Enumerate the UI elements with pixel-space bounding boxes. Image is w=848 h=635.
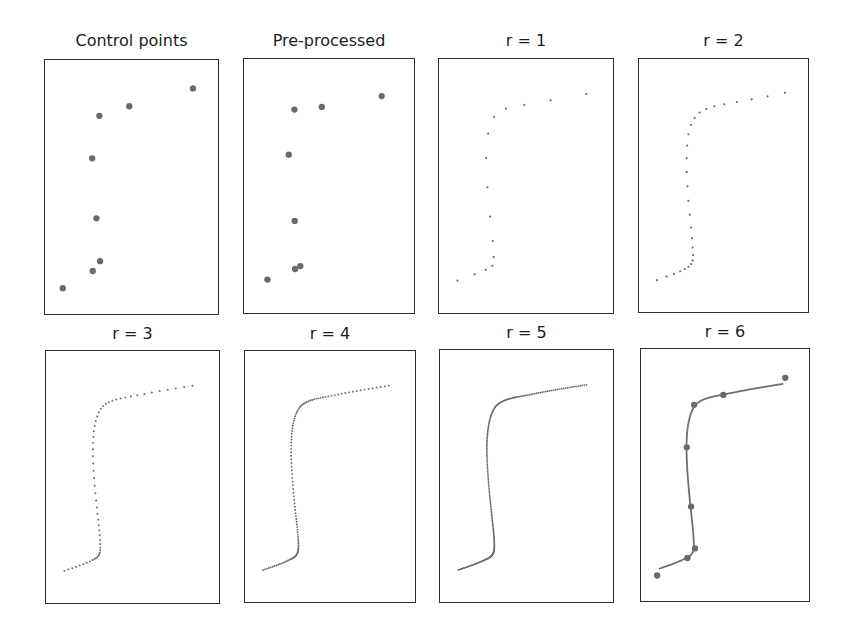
- curve-sample-point: [296, 529, 298, 531]
- curve-sample-point: [490, 502, 492, 504]
- curve-sample-point: [549, 390, 551, 392]
- control-point: [720, 392, 726, 398]
- curve-sample-point: [487, 471, 489, 473]
- curve-sample-point: [344, 392, 346, 394]
- curve-sample-point: [282, 562, 284, 564]
- curve-sample-point: [536, 392, 538, 394]
- curve-sample-point: [290, 448, 292, 450]
- curve-sample-point: [308, 400, 310, 402]
- curve-sample-point: [94, 492, 96, 494]
- curve-sample-point: [291, 477, 293, 479]
- curve-sample-point: [687, 133, 689, 135]
- curve-sample-point: [356, 390, 358, 392]
- curve-sample-point: [96, 415, 98, 417]
- data-point: [89, 155, 95, 161]
- curve-sample-point: [486, 454, 488, 456]
- curve-sample-point: [341, 393, 343, 395]
- curve-sample-point: [523, 104, 525, 106]
- curve-sample-point: [573, 386, 575, 388]
- curve-sample-point: [457, 569, 459, 571]
- curve-sample-point: [486, 451, 488, 453]
- curve-sample-point: [545, 391, 547, 393]
- curve-sample-point: [272, 566, 274, 568]
- curve-sample-point: [97, 519, 99, 521]
- curve-sample-point: [291, 473, 293, 475]
- plot-r3: [46, 351, 219, 603]
- curve-sample-point: [364, 389, 366, 391]
- curve-sample-point: [489, 497, 491, 499]
- curve-sample-point: [98, 411, 100, 413]
- curve-sample-point: [486, 458, 488, 460]
- control-point: [684, 444, 690, 450]
- curve-sample-point: [766, 95, 768, 97]
- curve-sample-point: [489, 499, 491, 501]
- curve-sample-point: [93, 477, 95, 479]
- curve-sample-point: [666, 276, 668, 278]
- curve-sample-point: [293, 499, 295, 501]
- curve-sample-point: [489, 216, 491, 218]
- curve-sample-point: [298, 407, 300, 409]
- curve-sample-point: [67, 569, 69, 571]
- curve-sample-point: [295, 512, 297, 514]
- curve-sample-point: [92, 462, 94, 464]
- curve-sample-point: [360, 389, 362, 391]
- data-point: [319, 104, 325, 110]
- curve-sample-point: [490, 510, 492, 512]
- curve-sample-point: [297, 531, 299, 533]
- curve-sample-point: [92, 442, 94, 444]
- curve-sample-point: [567, 387, 569, 389]
- curve-sample-point: [368, 388, 370, 390]
- curve-sample-point: [698, 111, 700, 113]
- panel-r3: [45, 350, 220, 604]
- curve-sample-point: [290, 455, 292, 457]
- curve-sample-point: [102, 405, 104, 407]
- curve-sample-point: [490, 506, 492, 508]
- curve-sample-point: [486, 453, 488, 455]
- curve-sample-point: [86, 562, 88, 564]
- curve-sample-point: [489, 491, 491, 493]
- curve-sample-point: [493, 116, 495, 118]
- curve-sample-point: [723, 103, 725, 105]
- curve-sample-point: [124, 397, 126, 399]
- curve-sample-point: [290, 462, 292, 464]
- curve-sample-point: [571, 386, 573, 388]
- curve-sample-point: [692, 254, 694, 256]
- curve-sample-point: [99, 539, 101, 541]
- curve-sample-point: [99, 549, 101, 551]
- curve-sample-point: [297, 540, 299, 542]
- data-point: [90, 268, 96, 274]
- curve-sample-point: [296, 526, 298, 528]
- curve-sample-point: [277, 564, 279, 566]
- plot-r1: [439, 59, 613, 313]
- curve-sample-point: [291, 466, 293, 468]
- curve-sample-point: [296, 521, 298, 523]
- curve-sample-point: [111, 400, 113, 402]
- curve-sample-point: [692, 246, 694, 248]
- curve-sample-point: [290, 451, 292, 453]
- curve-sample-point: [96, 506, 98, 508]
- curve-sample-point: [492, 240, 494, 242]
- curve-sample-point: [486, 441, 488, 443]
- curve-sample-point: [297, 409, 299, 411]
- curve-sample-point: [264, 568, 266, 570]
- curve-sample-point: [352, 391, 354, 393]
- control-point: [691, 402, 697, 408]
- curve-sample-point: [294, 509, 296, 511]
- curve-sample-point: [486, 446, 488, 448]
- curve-sample-point: [92, 448, 94, 450]
- curve-sample-point: [93, 470, 95, 472]
- curve-sample-point: [488, 482, 490, 484]
- curve-sample-point: [487, 465, 489, 467]
- curve-sample-point: [529, 394, 531, 396]
- curve-sample-point: [488, 486, 490, 488]
- curve-sample-point: [486, 463, 488, 465]
- curve-sample-point: [686, 171, 688, 173]
- curve-sample-point: [105, 403, 107, 405]
- curve-sample-point: [130, 396, 132, 398]
- curve-sample-point: [561, 388, 563, 390]
- data-point: [126, 103, 132, 109]
- curve-sample-point: [489, 495, 491, 497]
- curve-sample-point: [488, 480, 490, 482]
- curve-sample-point: [487, 469, 489, 471]
- curve-sample-point: [751, 98, 753, 100]
